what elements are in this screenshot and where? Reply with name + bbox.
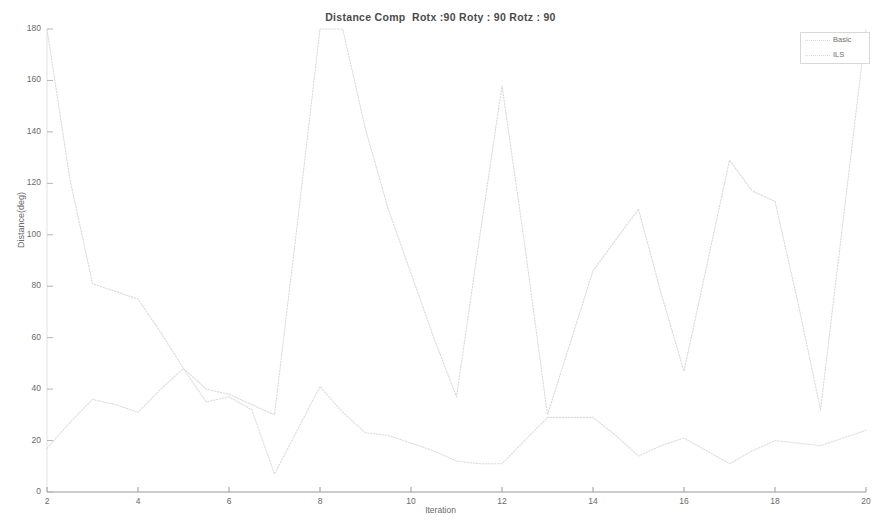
x-tick-label: 12: [487, 496, 517, 506]
legend-label-ils: ILS: [833, 50, 844, 59]
legend-item-basic[interactable]: Basic: [801, 33, 871, 49]
y-tick-label: 160: [7, 74, 41, 84]
x-tick-label: 18: [760, 496, 790, 506]
legend-swatch-basic: [805, 40, 830, 41]
chart-figure: Distance Comp Rotx :90 Roty : 90 Rotz : …: [0, 0, 881, 522]
x-tick-label: 10: [396, 496, 426, 506]
x-tick-label: 14: [578, 496, 608, 506]
y-tick-label: 20: [7, 435, 41, 445]
y-tick-label: 40: [7, 383, 41, 393]
y-tick-label: 80: [7, 280, 41, 290]
x-tick-label: 2: [32, 496, 62, 506]
y-tick-label: 140: [7, 126, 41, 136]
plot-area: [0, 0, 881, 522]
series-line-ils: [47, 369, 866, 474]
axis-frame: [47, 29, 866, 492]
x-tick-label: 6: [214, 496, 244, 506]
chart-legend[interactable]: Basic ILS: [800, 32, 870, 64]
tick-marks: [47, 29, 866, 492]
legend-swatch-ils: [805, 55, 830, 56]
series-lines: [47, 29, 866, 474]
legend-label-basic: Basic: [833, 35, 851, 44]
x-tick-label: 8: [305, 496, 335, 506]
series-line-basic: [47, 29, 866, 415]
y-tick-label: 100: [7, 229, 41, 239]
y-tick-label: 120: [7, 177, 41, 187]
x-tick-label: 20: [851, 496, 881, 506]
y-tick-label: 60: [7, 332, 41, 342]
y-tick-label: 0: [7, 486, 41, 496]
y-tick-label: 180: [7, 23, 41, 33]
x-tick-label: 4: [123, 496, 153, 506]
legend-item-ils[interactable]: ILS: [801, 48, 871, 64]
x-tick-label: 16: [669, 496, 699, 506]
